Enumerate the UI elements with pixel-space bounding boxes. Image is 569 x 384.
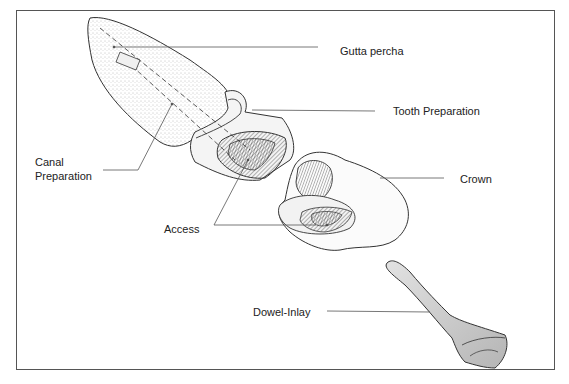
dowel-inlay bbox=[386, 261, 507, 368]
label-access: Access bbox=[164, 222, 199, 236]
label-dowel-inlay: Dowel-Inlay bbox=[253, 305, 310, 319]
label-canal-preparation-line2: Preparation bbox=[35, 169, 92, 183]
label-crown: Crown bbox=[460, 172, 492, 186]
crown bbox=[278, 152, 408, 250]
tooth-root bbox=[88, 18, 294, 181]
label-tooth-preparation: Tooth Preparation bbox=[393, 104, 480, 118]
label-gutta-percha: Gutta percha bbox=[340, 44, 404, 58]
label-canal-preparation-line1: Canal bbox=[35, 155, 92, 169]
leader-tooth-preparation bbox=[252, 110, 375, 111]
leader-dowel-inlay bbox=[327, 311, 430, 312]
dental-illustration bbox=[0, 0, 569, 384]
label-canal-preparation: Canal Preparation bbox=[35, 155, 92, 183]
